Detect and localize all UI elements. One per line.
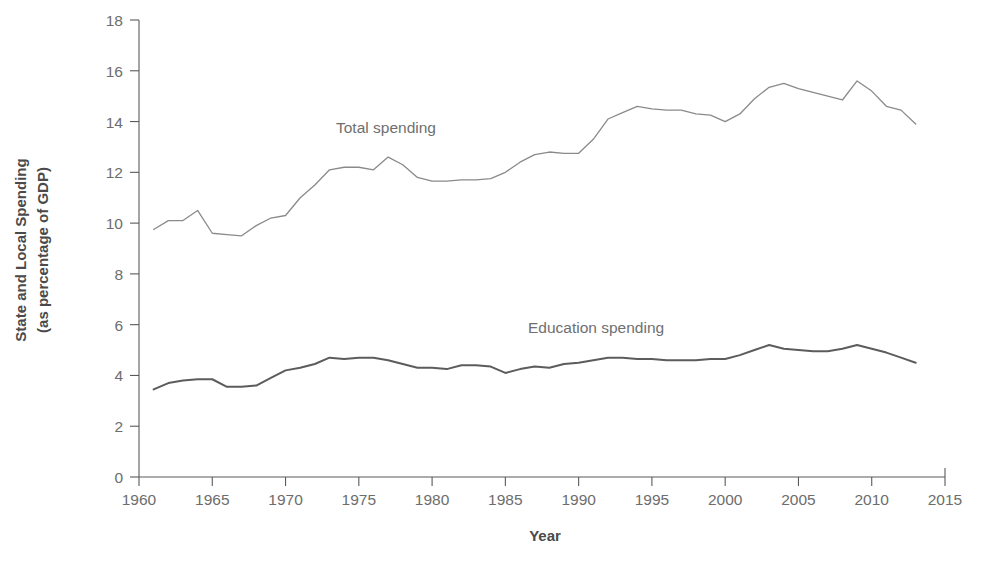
series-annotation: Education spending <box>528 319 664 336</box>
series-line-total-spending <box>154 81 916 236</box>
y-axis-ticks: 024681012141618 <box>106 12 139 486</box>
chart-figure: 024681012141618 196019651970197519801985… <box>0 0 983 562</box>
x-tick-label: 2005 <box>781 491 815 508</box>
x-tick-label: 1965 <box>195 491 229 508</box>
x-tick-label: 1985 <box>488 491 522 508</box>
x-tick-label: 1960 <box>122 491 157 508</box>
x-axis-ticks: 1960196519701975198019851990199520002005… <box>122 477 962 508</box>
x-tick-label: 2015 <box>928 491 962 508</box>
x-tick-label: 1975 <box>342 491 376 508</box>
y-tick-label: 4 <box>114 367 123 384</box>
y-tick-label: 12 <box>106 164 123 181</box>
y-tick-label: 14 <box>106 114 124 131</box>
x-axis-title: Year <box>529 527 561 544</box>
y-tick-label: 6 <box>114 317 123 334</box>
x-tick-label: 2010 <box>854 491 889 508</box>
x-tick-label: 1970 <box>268 491 303 508</box>
series-annotation: Total spending <box>336 119 436 136</box>
y-axis-title-line2: (as percentage of GDP) <box>34 167 51 333</box>
y-tick-label: 16 <box>106 63 123 80</box>
series-lines <box>154 81 916 389</box>
y-tick-label: 0 <box>114 469 123 486</box>
y-tick-label: 18 <box>106 12 123 29</box>
x-tick-label: 2000 <box>708 491 743 508</box>
y-tick-label: 10 <box>106 215 124 232</box>
x-tick-label: 1995 <box>635 491 669 508</box>
y-tick-label: 8 <box>114 266 123 283</box>
y-axis-title-line1: State and Local Spending <box>12 158 29 341</box>
x-tick-label: 1980 <box>415 491 450 508</box>
y-tick-label: 2 <box>114 418 123 435</box>
x-tick-label: 1990 <box>561 491 596 508</box>
series-annotations: Total spendingEducation spending <box>336 119 664 336</box>
series-line-education-spending <box>154 345 916 389</box>
line-chart-canvas: 024681012141618 196019651970197519801985… <box>0 0 983 562</box>
